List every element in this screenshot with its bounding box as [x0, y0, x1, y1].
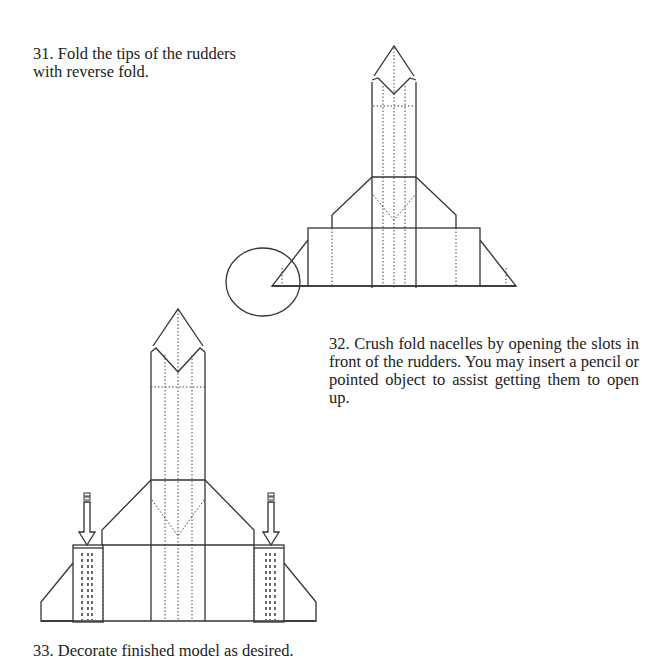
- down-arrow-icon: [79, 493, 95, 545]
- down-arrow-icon: [263, 493, 279, 545]
- figure-32-diagram: [41, 309, 316, 625]
- highlight-circle: [226, 248, 300, 316]
- figure-31-diagram: [226, 46, 516, 316]
